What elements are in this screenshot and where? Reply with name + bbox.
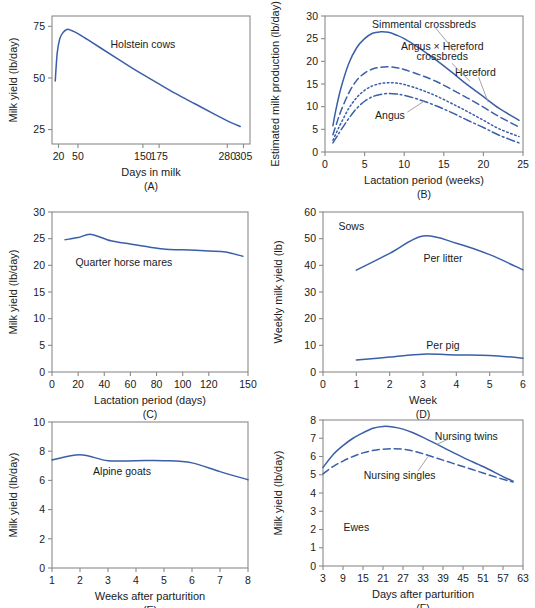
x-tick-label: 40: [98, 378, 110, 390]
x-tick-label: 3: [105, 574, 111, 586]
y-tick-label: 2: [310, 523, 316, 535]
x-tick-label: 0: [49, 378, 55, 390]
y-tick-label: 0: [39, 562, 45, 574]
x-tick-label: 5: [487, 378, 493, 390]
x-tick-label: 20: [72, 378, 84, 390]
y-tick-label: 10: [306, 100, 318, 112]
y-tick-label: 30: [306, 10, 318, 22]
x-tick-label: 6: [520, 378, 526, 390]
curve-annotation: Holstein cows: [110, 38, 175, 50]
y-tick-label: 5: [312, 123, 318, 135]
chart-f: 01234567839152127333945515763Nursing twi…: [265, 404, 535, 608]
x-tick-label: 45: [457, 572, 469, 584]
leader-line: [479, 77, 489, 102]
x-axis-label: Days in milk: [121, 166, 181, 178]
x-tick-label: 0: [320, 378, 326, 390]
x-tick-label: 50: [72, 150, 84, 162]
y-axis-label: Milk yield (lb/day): [7, 38, 19, 123]
y-tick-label: 15: [306, 78, 318, 90]
y-tick-label: 25: [33, 123, 45, 135]
x-axis-label: Days after parturition: [372, 588, 474, 600]
chart-b: 0510152025300510152025Simmental crossbre…: [265, 0, 535, 200]
panel-e: 024681012345678Alpine goatsWeeks after p…: [0, 404, 265, 608]
y-axis-label: Milk yield (lb/day): [7, 250, 19, 335]
panel-b: 0510152025300510152025Simmental crossbre…: [265, 0, 535, 200]
y-axis-label: Milk yield (lb/day): [7, 453, 19, 538]
chart-d: 01020304050600123456SowsPer litterPer pi…: [265, 200, 535, 404]
x-tick-label: 100: [174, 378, 192, 390]
x-tick-label: 27: [397, 572, 409, 584]
x-tick-label: 1: [49, 574, 55, 586]
data-curve: [333, 94, 519, 143]
x-tick-label: 20: [478, 158, 490, 170]
curve-annotation: crossbreds: [417, 50, 468, 62]
x-tick-label: 21: [377, 572, 389, 584]
panel-label: (F): [416, 602, 429, 608]
y-tick-label: 3: [310, 505, 316, 517]
panel-label: (B): [417, 188, 431, 200]
y-tick-label: 20: [306, 55, 318, 67]
leader-line: [407, 101, 424, 112]
y-tick-label: 4: [310, 487, 316, 499]
x-tick-label: 305: [235, 150, 253, 162]
y-axis-label: Weekly milk yield (lb): [272, 240, 284, 343]
y-tick-label: 25: [306, 32, 318, 44]
curve-annotation: Hereford: [455, 66, 496, 78]
y-tick-label: 40: [304, 259, 316, 271]
x-tick-label: 120: [200, 378, 218, 390]
curve-annotation: Per pig: [426, 339, 459, 351]
y-tick-label: 1: [310, 541, 316, 553]
data-curve: [65, 234, 243, 256]
curve-annotation: Sows: [338, 220, 364, 232]
y-tick-label: 30: [304, 286, 316, 298]
panel-a: 2550752050150175280305Holstein cowsDays …: [0, 0, 265, 200]
y-tick-label: 0: [310, 560, 316, 572]
x-axis-label: Weeks after parturition: [95, 590, 205, 602]
x-tick-label: 175: [150, 150, 168, 162]
y-tick-label: 10: [33, 416, 45, 428]
x-tick-label: 80: [151, 378, 163, 390]
y-tick-label: 15: [33, 286, 45, 298]
y-tick-label: 75: [33, 20, 45, 32]
curve-annotation: Simmental crossbreds: [372, 18, 476, 30]
x-tick-label: 15: [438, 158, 450, 170]
x-tick-label: 10: [398, 158, 410, 170]
x-axis-label: Lactation period (weeks): [364, 174, 484, 186]
x-tick-label: 15: [357, 572, 369, 584]
y-tick-label: 5: [310, 468, 316, 480]
y-tick-label: 8: [39, 445, 45, 457]
data-curve: [333, 83, 519, 141]
panel-d: 01020304050600123456SowsPer litterPer pi…: [265, 200, 535, 404]
curve-annotation: Per litter: [423, 252, 463, 264]
x-tick-label: 57: [497, 572, 509, 584]
y-tick-label: 0: [312, 146, 318, 158]
y-tick-label: 50: [33, 72, 45, 84]
x-tick-label: 33: [417, 572, 429, 584]
x-tick-label: 280: [219, 150, 237, 162]
curve-annotation: Nursing twins: [435, 430, 498, 442]
x-tick-label: 3: [320, 572, 326, 584]
y-tick-label: 60: [304, 206, 316, 218]
x-tick-label: 39: [437, 572, 449, 584]
x-tick-label: 20: [53, 150, 65, 162]
chart-c: 051015202530020406080100120150Quarter ho…: [0, 200, 265, 404]
y-tick-label: 0: [310, 366, 316, 378]
y-axis-label: Milk yield (lb/day): [272, 451, 284, 536]
y-tick-label: 6: [310, 450, 316, 462]
chart-a: 2550752050150175280305Holstein cowsDays …: [0, 0, 265, 200]
data-curve: [356, 354, 523, 360]
y-tick-label: 20: [304, 312, 316, 324]
x-tick-label: 150: [134, 150, 152, 162]
x-tick-label: 4: [453, 378, 459, 390]
chart-e: 024681012345678Alpine goatsWeeks after p…: [0, 404, 265, 608]
y-tick-label: 6: [39, 474, 45, 486]
x-tick-label: 6: [189, 574, 195, 586]
panel-f: 01234567839152127333945515763Nursing twi…: [265, 404, 535, 608]
y-tick-label: 0: [39, 366, 45, 378]
x-tick-label: 25: [517, 158, 529, 170]
plot-frame: [52, 422, 248, 568]
panel-label: (E): [143, 604, 157, 608]
x-tick-label: 51: [477, 572, 489, 584]
curve-annotation: Ewes: [343, 521, 369, 533]
x-tick-label: 5: [362, 158, 368, 170]
